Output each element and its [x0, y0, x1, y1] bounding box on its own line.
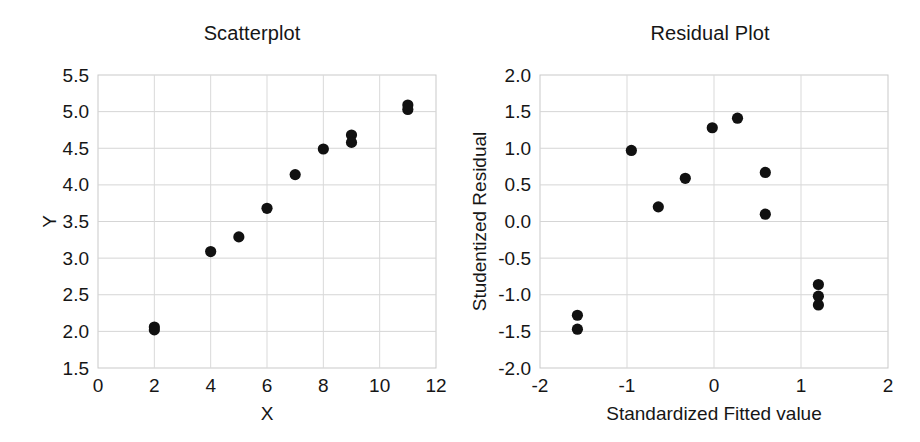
data-point	[205, 246, 216, 257]
figure-scatter-and-residual-plots: Scatterplot 1.52.02.53.03.54.04.55.05.50…	[0, 0, 920, 442]
x-axis-tick-label: 4	[205, 375, 216, 396]
y-axis-tick-label: -2.0	[498, 358, 531, 379]
y-axis-tick-label: 1.0	[505, 138, 531, 159]
residual-plot-canvas: -2.0-1.5-1.0-0.50.00.51.01.52.0-2-1012St…	[460, 0, 920, 442]
data-point	[346, 137, 357, 148]
data-point	[572, 310, 583, 321]
data-point	[680, 173, 691, 184]
x-axis-tick-label: 8	[318, 375, 329, 396]
x-axis-tick-label: 0	[93, 375, 104, 396]
panel-residual-plot: Residual Plot -2.0-1.5-1.0-0.50.00.51.01…	[460, 0, 920, 442]
data-point	[653, 201, 664, 212]
y-axis-tick-label: 2.0	[63, 321, 89, 342]
y-axis-label: Y	[39, 215, 60, 228]
data-point	[707, 122, 718, 133]
y-axis-tick-label: 0.0	[505, 211, 531, 232]
x-axis-tick-label: 10	[369, 375, 390, 396]
data-point	[813, 279, 824, 290]
y-axis-tick-label: 4.0	[63, 174, 89, 195]
data-point	[813, 299, 824, 310]
x-axis-tick-label: 2	[149, 375, 160, 396]
scatterplot-canvas: 1.52.02.53.03.54.04.55.05.5024681012XY	[0, 0, 460, 442]
y-axis-tick-label: 4.5	[63, 138, 89, 159]
data-point	[626, 145, 637, 156]
x-axis-tick-label: 1	[796, 375, 807, 396]
y-axis-tick-label: 1.5	[505, 101, 531, 122]
x-axis-tick-label: 2	[883, 375, 894, 396]
x-axis-tick-label: 12	[425, 375, 446, 396]
data-point	[261, 203, 272, 214]
data-point	[760, 167, 771, 178]
x-axis-tick-label: 0	[709, 375, 720, 396]
y-axis-tick-label: -1.5	[498, 321, 531, 342]
y-axis-tick-label: 2.0	[505, 65, 531, 86]
y-axis-tick-label: 0.5	[505, 174, 531, 195]
data-point	[290, 169, 301, 180]
y-axis-tick-label: 5.0	[63, 101, 89, 122]
data-point	[760, 209, 771, 220]
data-point	[233, 231, 244, 242]
x-axis-tick-label: -1	[619, 375, 636, 396]
data-point	[149, 324, 160, 335]
y-axis-tick-label: 3.5	[63, 211, 89, 232]
x-axis-label: Standardized Fitted value	[606, 403, 821, 424]
y-axis-tick-label: 2.5	[63, 284, 89, 305]
y-axis-tick-label: 5.5	[63, 65, 89, 86]
x-axis-label: X	[261, 403, 274, 424]
y-axis-tick-label: -0.5	[498, 248, 531, 269]
panel-scatterplot: Scatterplot 1.52.02.53.03.54.04.55.05.50…	[0, 0, 460, 442]
data-point	[732, 113, 743, 124]
y-axis-tick-label: 3.0	[63, 248, 89, 269]
data-point	[318, 143, 329, 154]
y-axis-tick-label: -1.0	[498, 284, 531, 305]
y-axis-label: Studentized Residual	[469, 132, 490, 312]
data-point	[402, 104, 413, 115]
x-axis-tick-label: -2	[532, 375, 549, 396]
y-axis-tick-label: 1.5	[63, 358, 89, 379]
x-axis-tick-label: 6	[262, 375, 273, 396]
data-point	[572, 324, 583, 335]
